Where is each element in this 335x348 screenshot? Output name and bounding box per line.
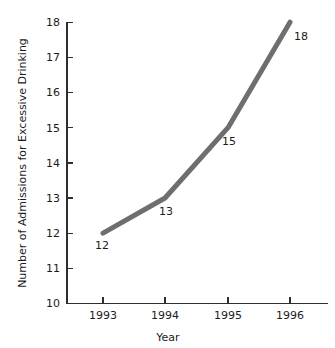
series-line-admissions — [103, 22, 290, 233]
y-axis-title: Number of Admissions for Excessive Drink… — [16, 38, 29, 288]
x-axis-tick-labels: 1993 1994 1995 1996 — [89, 309, 304, 322]
x-axis-title: Year — [155, 331, 180, 344]
y-tick-label-15: 15 — [46, 122, 60, 135]
point-label-1995: 15 — [222, 135, 236, 148]
y-axis-tick-labels: 10 11 12 13 14 15 16 17 18 — [46, 16, 60, 310]
y-tick-label-17: 17 — [46, 51, 60, 64]
x-tick-label-1996: 1996 — [276, 309, 304, 322]
x-tick-label-1993: 1993 — [89, 309, 117, 322]
y-tick-label-12: 12 — [46, 227, 60, 240]
y-tick-label-14: 14 — [46, 157, 60, 170]
point-label-1993: 12 — [95, 239, 109, 252]
chart-figure: 10 11 12 13 14 15 16 17 18 1993 1994 199… — [0, 0, 335, 348]
y-tick-label-10: 10 — [46, 297, 60, 310]
y-axis-ticks — [67, 22, 73, 303]
x-axis-ticks — [103, 297, 290, 304]
y-tick-label-11: 11 — [46, 262, 60, 275]
x-tick-label-1995: 1995 — [214, 309, 242, 322]
x-tick-label-1994: 1994 — [151, 309, 179, 322]
y-tick-label-13: 13 — [46, 192, 60, 205]
point-label-1994: 13 — [159, 205, 173, 218]
point-label-1996: 18 — [294, 30, 308, 43]
y-tick-label-16: 16 — [46, 86, 60, 99]
y-tick-label-18: 18 — [46, 16, 60, 29]
line-chart: 10 11 12 13 14 15 16 17 18 1993 1994 199… — [0, 0, 335, 348]
